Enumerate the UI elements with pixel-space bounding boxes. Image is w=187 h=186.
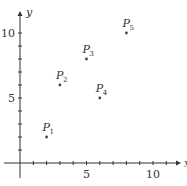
data-point bbox=[98, 97, 101, 100]
y-axis-label: y bbox=[25, 6, 33, 19]
x-axis-label: x bbox=[184, 157, 187, 170]
point-label-subscript: 4 bbox=[103, 89, 108, 97]
point-label-subscript: 1 bbox=[50, 128, 54, 136]
scatter-chart: xy510510P1P2P3P4P5 bbox=[0, 0, 187, 186]
point-label-subscript: 3 bbox=[90, 50, 94, 58]
data-point bbox=[85, 58, 88, 61]
point-label-subscript: 2 bbox=[63, 76, 67, 84]
data-point bbox=[59, 84, 62, 87]
point-label-subscript: 5 bbox=[129, 24, 133, 32]
x-axis-arrow-icon bbox=[176, 161, 181, 166]
x-tick-label: 10 bbox=[146, 168, 160, 181]
data-point bbox=[125, 32, 128, 35]
y-tick-label: 5 bbox=[8, 92, 15, 105]
x-tick-label: 5 bbox=[83, 168, 90, 181]
y-axis-arrow-icon bbox=[18, 11, 23, 16]
data-point bbox=[45, 136, 48, 139]
y-tick-label: 10 bbox=[1, 27, 15, 40]
